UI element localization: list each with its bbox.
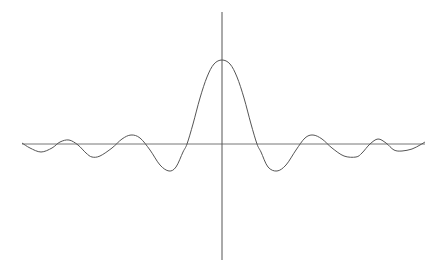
curve-line xyxy=(22,60,425,171)
sinc-plot xyxy=(0,0,448,273)
